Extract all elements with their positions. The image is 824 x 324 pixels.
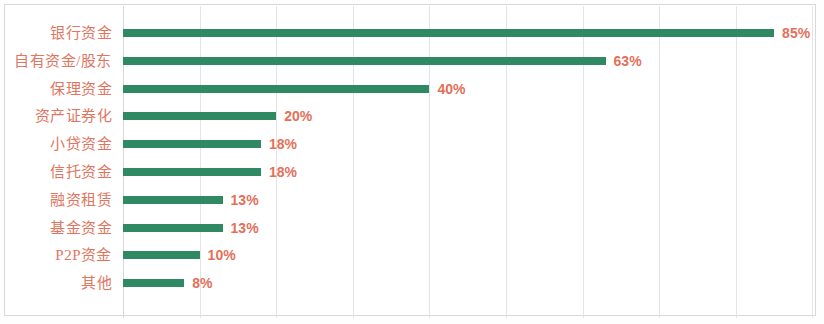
bar: [123, 168, 261, 176]
bar-row: 信托资金18%: [0, 159, 824, 185]
category-label: 银行资金: [0, 24, 112, 42]
category-label: 基金资金: [0, 219, 112, 237]
bar-rows: 银行资金85%自有资金/股东63%保理资金40%资产证券化20%小贷资金18%信…: [0, 0, 824, 324]
value-label: 20%: [284, 108, 312, 124]
category-label: 融资租赁: [0, 191, 112, 209]
bar-and-value: 13%: [123, 187, 259, 213]
category-label: 保理资金: [0, 80, 112, 98]
bar: [123, 224, 223, 232]
bar-and-value: 13%: [123, 215, 259, 241]
bar-and-value: 20%: [123, 103, 312, 129]
bar-row: 基金资金13%: [0, 215, 824, 241]
bar: [123, 279, 184, 287]
bar-and-value: 85%: [123, 20, 810, 46]
category-label: 小贷资金: [0, 135, 112, 153]
category-label: 信托资金: [0, 163, 112, 181]
bar: [123, 140, 261, 148]
bar-and-value: 10%: [123, 242, 236, 268]
value-label: 8%: [192, 275, 212, 291]
category-label: 自有资金/股东: [0, 52, 112, 70]
bar-row: 小贷资金18%: [0, 131, 824, 157]
value-label: 18%: [269, 136, 297, 152]
bar-and-value: 63%: [123, 48, 642, 74]
bar: [123, 57, 606, 65]
bar-and-value: 18%: [123, 159, 297, 185]
bar: [123, 85, 429, 93]
bar-row: 自有资金/股东63%: [0, 48, 824, 74]
value-label: 13%: [231, 192, 259, 208]
bar-and-value: 18%: [123, 131, 297, 157]
bar-and-value: 40%: [123, 76, 465, 102]
category-label: 其他: [0, 274, 112, 292]
bar-row: 其他8%: [0, 270, 824, 296]
value-label: 18%: [269, 164, 297, 180]
value-label: 85%: [782, 25, 810, 41]
value-label: 10%: [208, 247, 236, 263]
value-label: 40%: [437, 81, 465, 97]
bar-row: P2P资金10%: [0, 242, 824, 268]
bar-row: 资产证券化20%: [0, 103, 824, 129]
category-label: 资产证券化: [0, 107, 112, 125]
bar: [123, 251, 200, 259]
bar-row: 保理资金40%: [0, 76, 824, 102]
bar-row: 融资租赁13%: [0, 187, 824, 213]
value-label: 63%: [614, 53, 642, 69]
bar-and-value: 8%: [123, 270, 213, 296]
category-label: P2P资金: [0, 246, 112, 264]
bar: [123, 112, 276, 120]
value-label: 13%: [231, 220, 259, 236]
bar-row: 银行资金85%: [0, 20, 824, 46]
bar: [123, 29, 774, 37]
horizontal-bar-chart: 银行资金85%自有资金/股东63%保理资金40%资产证券化20%小贷资金18%信…: [0, 0, 824, 324]
bar: [123, 196, 223, 204]
